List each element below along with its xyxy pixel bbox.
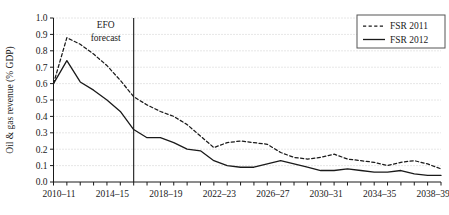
y-tick-label-0.8: 0.8 bbox=[36, 46, 48, 56]
oil-gas-revenue-line-chart: 0.00.10.20.30.40.50.60.70.80.91.02010–11… bbox=[0, 0, 449, 215]
y-tick-label-1.0: 1.0 bbox=[36, 13, 48, 23]
y-tick-label-0.4: 0.4 bbox=[36, 112, 48, 122]
x-tick-label-2038-39: 2038–39 bbox=[417, 189, 449, 199]
legend-label-fsr-2011: FSR 2011 bbox=[390, 21, 428, 31]
series-line-fsr-2012 bbox=[54, 61, 442, 176]
legend-label-fsr-2012: FSR 2012 bbox=[390, 35, 429, 45]
y-tick-label-0.6: 0.6 bbox=[36, 79, 48, 89]
chart-container: 0.00.10.20.30.40.50.60.70.80.91.02010–11… bbox=[0, 0, 449, 215]
y-tick-label-0.5: 0.5 bbox=[36, 95, 48, 105]
y-tick-label-0.7: 0.7 bbox=[36, 63, 48, 73]
x-tick-label-2030-31: 2030–31 bbox=[310, 189, 344, 199]
x-tick-label-2034-35: 2034–35 bbox=[363, 189, 397, 199]
y-tick-label-0.0: 0.0 bbox=[36, 177, 48, 187]
y-tick-label-0.9: 0.9 bbox=[36, 30, 48, 40]
x-tick-label-2026-27: 2026–27 bbox=[256, 189, 290, 199]
efo-forecast-label-line2: forecast bbox=[91, 33, 121, 43]
x-tick-label-2014-15: 2014–15 bbox=[96, 189, 130, 199]
x-tick-label-2018-19: 2018–19 bbox=[149, 189, 183, 199]
x-tick-label-2010-11: 2010–11 bbox=[43, 189, 76, 199]
x-tick-label-2022-23: 2022–23 bbox=[203, 189, 237, 199]
efo-forecast-label-line1: EFO bbox=[97, 20, 115, 30]
y-axis-title: Oil & gas revenue (% GDP) bbox=[5, 46, 16, 153]
y-tick-label-0.1: 0.1 bbox=[36, 161, 48, 171]
y-tick-label-0.3: 0.3 bbox=[36, 128, 48, 138]
y-tick-label-0.2: 0.2 bbox=[36, 145, 48, 155]
